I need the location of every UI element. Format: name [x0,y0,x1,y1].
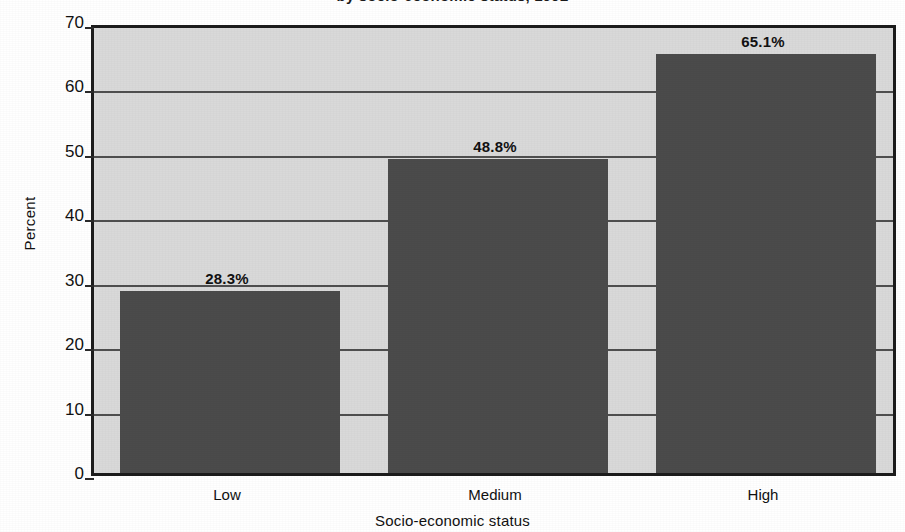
y-axis-tick-label: 20 [44,336,84,353]
y-axis-tick-label: 50 [44,143,84,160]
y-axis-tick-mark [85,156,94,158]
bar-chart-figure: by socio-economic status, 1992 Percent 0… [0,0,905,532]
bar-value-label: 65.1% [653,33,873,50]
bar[interactable] [656,54,876,473]
y-axis-label: Percent [21,179,38,269]
y-axis-tick-mark [85,27,94,29]
bar-value-label: 28.3% [117,270,337,287]
y-axis-tick-label: 10 [44,401,84,418]
chart-title: by socio-economic status, 1992 [0,0,905,5]
bar[interactable] [120,291,340,473]
x-axis-tick-label: High [653,486,873,503]
y-axis-tick-label: 40 [44,207,84,224]
plot-area [91,25,896,476]
y-axis-tick-labels: 010203040506070 [38,0,84,532]
y-axis-tick-mark [85,414,94,416]
x-axis-tick-label: Low [117,486,337,503]
y-axis-tick-label: 30 [44,272,84,289]
x-axis-label: Socio-economic status [0,512,905,529]
y-axis-tick-label: 60 [44,78,84,95]
bar[interactable] [388,159,608,473]
y-axis-tick-mark [85,349,94,351]
bar-value-label: 48.8% [385,138,605,155]
y-axis-tick-mark [85,478,94,480]
plot-inner [94,28,893,473]
x-axis-tick-label: Medium [385,486,605,503]
y-axis-tick-mark [85,285,94,287]
y-axis-tick-label: 0 [44,465,84,482]
y-axis-tick-mark [85,91,94,93]
y-axis-tick-label: 70 [44,14,84,31]
y-axis-tick-mark [85,220,94,222]
